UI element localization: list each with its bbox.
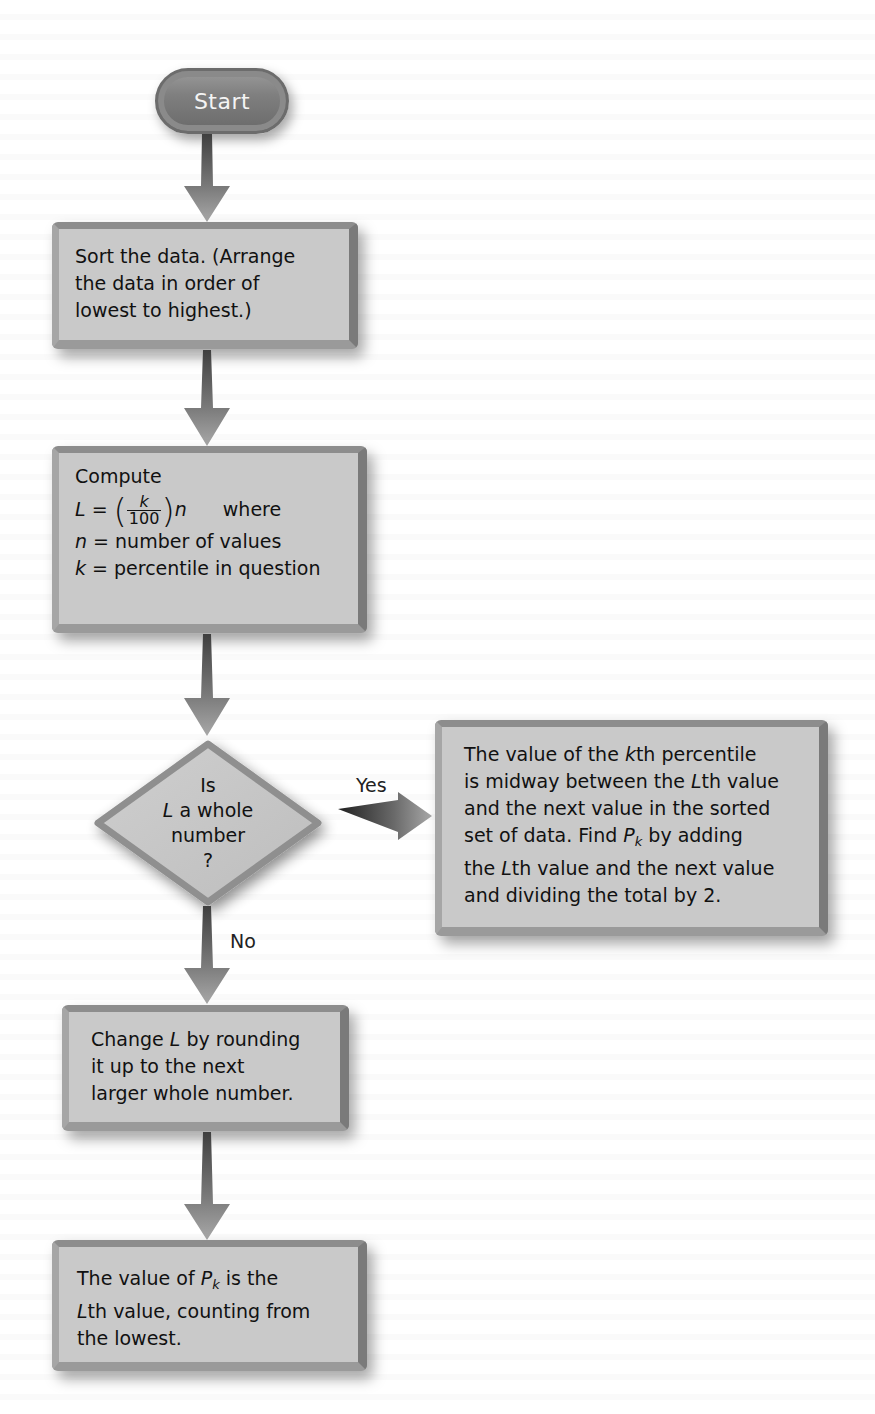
def-n-text: = number of values bbox=[93, 530, 281, 552]
final-percentile-step: The value of Pk is the Lth value, counti… bbox=[52, 1240, 367, 1371]
compute-title: Compute bbox=[75, 463, 344, 490]
round-up-step: Change L by rounding it up to the next l… bbox=[62, 1005, 349, 1131]
yes-line-3: and the next value in the sorted bbox=[464, 795, 805, 822]
arrow-down-icon bbox=[180, 634, 234, 738]
definition-n: n = number of values bbox=[75, 528, 344, 555]
yes-line-5: the Lth value and the next value bbox=[464, 855, 805, 882]
no-line-2: it up to the next bbox=[91, 1053, 326, 1080]
decision-diamond: Is L a whole number ? bbox=[92, 738, 324, 908]
decision-line-1: Is bbox=[200, 773, 216, 798]
fraction-denominator: 100 bbox=[127, 511, 162, 527]
def-k-var: k bbox=[75, 557, 86, 579]
decision-text: Is L a whole number ? bbox=[92, 738, 324, 908]
arrow-right-icon bbox=[338, 792, 434, 844]
decision-line-3: number bbox=[171, 823, 245, 848]
no-line-3: larger whole number. bbox=[91, 1080, 326, 1107]
decision-var-L: L bbox=[163, 799, 174, 821]
faded-background-text bbox=[0, 0, 875, 1414]
sort-line-1: Sort the data. (Arrange bbox=[75, 243, 335, 270]
def-n-var: n bbox=[75, 530, 87, 552]
arrow-down-icon bbox=[180, 134, 234, 224]
decision-line-4: ? bbox=[203, 848, 213, 873]
def-k-text: = percentile in question bbox=[92, 557, 320, 579]
formula-var: n bbox=[175, 498, 187, 520]
start-terminal: Start bbox=[155, 68, 289, 134]
formula-fraction: k100 bbox=[127, 494, 162, 527]
sort-line-3: lowest to highest.) bbox=[75, 297, 335, 324]
final-line-3: the lowest. bbox=[77, 1325, 344, 1352]
formula-where: where bbox=[223, 498, 281, 520]
yes-line-2: is midway between the Lth value bbox=[464, 768, 805, 795]
final-line-2: Lth value, counting from bbox=[77, 1298, 344, 1325]
arrow-down-icon bbox=[180, 1132, 234, 1242]
compute-formula: L = (k100)n where bbox=[75, 490, 344, 528]
start-label: Start bbox=[194, 89, 250, 114]
yes-line-4: set of data. Find Pk by adding bbox=[464, 822, 805, 855]
sort-line-2: the data in order of bbox=[75, 270, 335, 297]
decision-line-2: L a whole bbox=[163, 798, 254, 823]
arrow-down-icon bbox=[180, 906, 234, 1006]
arrow-down-icon bbox=[180, 350, 234, 448]
formula-paren-open: ( bbox=[114, 491, 127, 531]
no-label: No bbox=[230, 930, 256, 952]
formula-paren-close: ) bbox=[161, 491, 174, 531]
formula-lhs: L = bbox=[75, 498, 108, 520]
final-line-1: The value of Pk is the bbox=[77, 1265, 344, 1298]
whole-number-result-step: The value of the kth percentile is midwa… bbox=[435, 720, 828, 936]
definition-k: k = percentile in question bbox=[75, 555, 344, 582]
sort-data-step: Sort the data. (Arrange the data in orde… bbox=[52, 222, 358, 349]
no-line-1: Change L by rounding bbox=[91, 1026, 326, 1053]
decision-line-2-text: a whole bbox=[173, 799, 253, 821]
compute-step: Compute L = (k100)n where n = number of … bbox=[52, 446, 367, 633]
yes-line-1: The value of the kth percentile bbox=[464, 741, 805, 768]
yes-line-6: and dividing the total by 2. bbox=[464, 882, 805, 909]
